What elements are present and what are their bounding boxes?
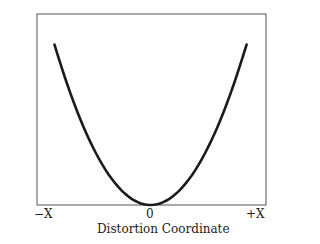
x-axis-label: Distortion Coordinate xyxy=(97,223,230,235)
x-tick-minus-x: −X xyxy=(34,208,53,220)
x-tick-zero: 0 xyxy=(146,208,154,220)
potential-curve xyxy=(55,45,247,205)
plot-frame xyxy=(37,14,266,205)
x-tick-plus-x: +X xyxy=(246,208,265,220)
